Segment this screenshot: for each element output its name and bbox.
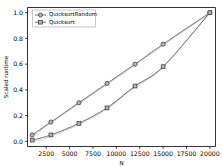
y-tick-label: 0.0 xyxy=(13,138,23,145)
x-tick-label: 5000 xyxy=(62,150,78,157)
legend-label-1: Quicksort xyxy=(49,19,75,25)
data-point-marker xyxy=(133,84,137,88)
chart-canvas: 2500500075001000012500150001750020000 0.… xyxy=(0,0,222,167)
chart-legend[interactable]: QuicksortRandomQuicksort xyxy=(33,10,98,27)
data-point-marker xyxy=(208,11,212,15)
data-point-marker xyxy=(77,101,81,105)
data-point-marker xyxy=(77,121,81,125)
x-tick-label: 15000 xyxy=(153,150,173,157)
y-tick-label: 0.4 xyxy=(13,86,23,93)
x-tick-label: 20000 xyxy=(200,150,220,157)
data-point-marker xyxy=(161,42,165,46)
legend-marker-0 xyxy=(39,13,43,17)
data-point-marker xyxy=(161,65,165,69)
y-tick-label: 0.8 xyxy=(13,35,23,42)
x-tick-label: 7500 xyxy=(85,150,101,157)
chart-figure: 2500500075001000012500150001750020000 0.… xyxy=(0,0,222,167)
y-axis-label: Scaled runtime xyxy=(3,55,9,98)
data-point-marker xyxy=(133,62,137,66)
x-axis-label: N xyxy=(119,160,123,166)
legend-marker-1 xyxy=(39,20,43,24)
y-tick-label: 0.2 xyxy=(13,112,23,119)
y-tick-label: 0.6 xyxy=(13,60,23,67)
data-point-marker xyxy=(49,133,53,137)
data-point-marker xyxy=(105,81,109,85)
data-point-marker xyxy=(30,138,34,142)
x-tick-label: 12500 xyxy=(130,150,150,157)
legend-label-0: QuicksortRandom xyxy=(49,11,97,17)
x-tick-label: 17500 xyxy=(177,150,197,157)
data-point-marker xyxy=(30,133,34,137)
y-tick-label: 1.0 xyxy=(13,9,23,16)
data-point-marker xyxy=(105,106,109,110)
x-tick-label: 2500 xyxy=(38,150,54,157)
data-point-marker xyxy=(49,120,53,124)
x-tick-label: 10000 xyxy=(107,150,127,157)
